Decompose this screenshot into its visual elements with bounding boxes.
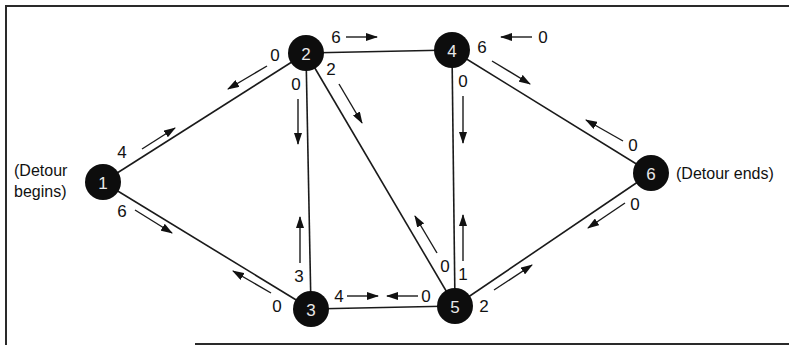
edge-2-3	[306, 53, 311, 309]
edge-4-6	[452, 50, 651, 173]
edge-4-5	[452, 50, 455, 306]
capacity-labels-layer: 406003602040016020	[117, 28, 639, 316]
node-label: 3	[306, 301, 315, 320]
capacity-label: 2	[326, 60, 335, 79]
detour-begins-label-line2: begins)	[14, 183, 66, 200]
capacity-label: 0	[272, 297, 281, 316]
detour-ends-label: (Detour ends)	[676, 165, 774, 182]
capacity-label: 6	[477, 38, 486, 57]
capacity-label: 1	[458, 265, 467, 284]
flow-arrow-icon	[586, 120, 623, 141]
node-6: 6	[633, 155, 669, 191]
flow-arrow-icon	[339, 84, 362, 123]
flow-arrow-icon	[494, 265, 532, 290]
edge-2-5	[306, 53, 455, 306]
capacity-label: 0	[538, 28, 547, 47]
network-flow-diagram: 406003602040016020 123456 (Detour begins…	[0, 0, 789, 347]
flow-arrow-icon	[415, 216, 437, 253]
node-label: 5	[450, 298, 459, 317]
node-2: 2	[288, 35, 324, 71]
edge-1-2	[103, 53, 306, 182]
node-3: 3	[293, 291, 329, 327]
edge-2-4	[306, 50, 452, 53]
diagram-frame	[6, 6, 789, 345]
capacity-label: 0	[630, 195, 639, 214]
node-label: 4	[447, 42, 456, 61]
capacity-label: 0	[270, 46, 279, 65]
capacity-label: 0	[440, 257, 449, 276]
node-label: 6	[646, 165, 655, 184]
node-1: 1	[85, 164, 121, 200]
edge-5-6	[455, 173, 651, 306]
capacity-label: 0	[628, 136, 637, 155]
capacity-label: 6	[331, 28, 340, 47]
capacity-label: 3	[294, 267, 303, 286]
flow-arrow-icon	[228, 66, 267, 89]
flow-arrows-layer	[135, 37, 625, 296]
capacity-label: 6	[117, 202, 126, 221]
edge-1-3	[103, 182, 311, 309]
edge-3-5	[311, 306, 455, 309]
capacity-label: 0	[421, 287, 430, 306]
node-4: 4	[434, 32, 470, 68]
capacity-label: 4	[334, 287, 343, 306]
capacity-label: 4	[117, 143, 126, 162]
detour-begins-label-line1: (Detour	[14, 162, 68, 179]
capacity-label: 2	[479, 297, 488, 316]
node-label: 1	[98, 174, 107, 193]
flow-arrow-icon	[492, 61, 530, 84]
capacity-label: 0	[291, 75, 300, 94]
capacity-label: 0	[458, 72, 467, 91]
node-5: 5	[437, 288, 473, 324]
node-label: 2	[301, 45, 310, 64]
nodes-layer: 123456	[85, 32, 669, 327]
flow-arrow-icon	[588, 203, 625, 228]
edges-layer	[103, 50, 651, 309]
